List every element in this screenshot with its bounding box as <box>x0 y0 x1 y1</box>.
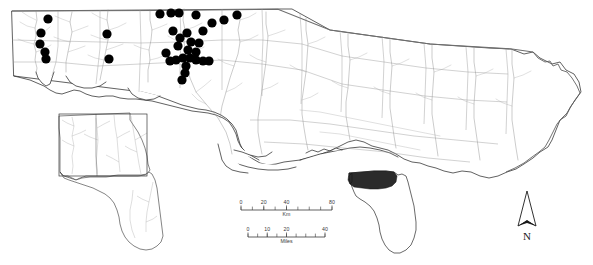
occurrence-point <box>35 39 44 48</box>
north-arrow-label: N <box>523 230 531 242</box>
occurrence-point <box>36 28 45 37</box>
occurrence-point <box>43 14 52 23</box>
scale-unit-label: Miles <box>280 238 293 244</box>
north-arrow: N <box>518 191 536 242</box>
inset-florida <box>60 172 163 250</box>
regional-inset-map <box>59 113 163 250</box>
florida-locator-map <box>348 171 416 253</box>
scale-tick-label: 40 <box>322 226 328 232</box>
scale-tick-label: 0 <box>247 226 250 232</box>
occurrence-point <box>41 54 50 63</box>
occurrence-point <box>155 9 164 18</box>
occurrence-point <box>166 8 175 17</box>
occurrence-point <box>104 54 113 63</box>
locator-panhandle-shaded <box>348 171 397 189</box>
scale-tick-label: 10 <box>264 226 270 232</box>
occurrence-point <box>177 75 186 84</box>
occurrence-point <box>168 26 177 35</box>
occurrence-point <box>198 26 207 35</box>
occurrence-point <box>185 53 194 62</box>
occurrence-point <box>174 8 183 17</box>
occurrence-point <box>232 10 241 19</box>
occurrence-point <box>102 29 111 38</box>
map-canvas: 0204080Km0102040Miles N <box>0 0 593 265</box>
scale-bar-kilometers: 0204080Km <box>240 199 335 218</box>
occurrence-point <box>194 38 203 47</box>
scale-bar-group: 0204080Km0102040Miles <box>240 199 335 245</box>
scale-unit-label: Km <box>283 211 291 217</box>
occurrence-point <box>175 33 184 42</box>
occurrence-point <box>161 48 170 57</box>
occurrence-point <box>186 37 195 46</box>
scale-tick-label: 80 <box>329 199 335 205</box>
occurrence-point <box>173 41 182 50</box>
occurrence-point <box>207 18 216 27</box>
occurrence-point <box>183 45 192 54</box>
scale-tick-label: 40 <box>284 199 290 205</box>
distribution-map-figure: 0204080Km0102040Miles N <box>0 0 593 265</box>
occurrence-point <box>165 56 174 65</box>
scale-tick-label: 20 <box>261 199 267 205</box>
occurrence-point <box>191 10 200 19</box>
occurrence-point <box>219 15 228 24</box>
scale-tick-label: 20 <box>284 226 290 232</box>
scale-tick-label: 0 <box>240 199 243 205</box>
scale-bar-miles: 0102040Miles <box>247 226 328 245</box>
occurrence-point <box>204 56 213 65</box>
